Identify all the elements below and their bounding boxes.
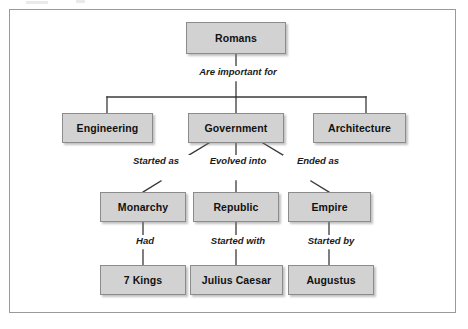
node-label: Government [205, 122, 268, 134]
edge-label-ended-as: Ended as [283, 155, 353, 166]
edge-government-empire-lower [311, 181, 329, 192]
node-label: Engineering [77, 122, 139, 134]
node-augustus[interactable]: Augustus [288, 265, 374, 295]
node-architecture[interactable]: Architecture [313, 113, 406, 143]
node-label: Architecture [328, 122, 391, 134]
edge-government-empire-upper [263, 143, 283, 155]
node-julius-caesar[interactable]: Julius Caesar [190, 265, 283, 295]
edge-label-evolved-into: Evolved into [195, 155, 281, 166]
node-seven-kings[interactable]: 7 Kings [100, 265, 186, 295]
node-label: Republic [213, 201, 258, 213]
edge-government-monarchy-upper [189, 143, 209, 155]
diagram-page: Romans Are important for Engineering Gov… [0, 0, 468, 329]
node-label: Augustus [306, 274, 355, 286]
edge-government-monarchy-lower [143, 181, 161, 192]
node-label: Romans [215, 32, 257, 44]
node-label: Monarchy [118, 201, 168, 213]
edge-label-had: Had [118, 235, 172, 246]
node-monarchy[interactable]: Monarchy [100, 192, 186, 222]
edge-label-started-with: Started with [196, 235, 280, 246]
node-label: Empire [311, 201, 347, 213]
node-empire[interactable]: Empire [288, 192, 371, 222]
edge-label-are-important-for: Are important for [170, 66, 306, 77]
node-republic[interactable]: Republic [193, 192, 279, 222]
edge-label-started-by: Started by [292, 235, 370, 246]
node-label: Julius Caesar [202, 274, 272, 286]
node-label: 7 Kings [124, 274, 163, 286]
node-romans[interactable]: Romans [186, 22, 286, 54]
node-engineering[interactable]: Engineering [62, 113, 153, 143]
edge-label-started-as: Started as [117, 155, 195, 166]
node-government[interactable]: Government [188, 113, 284, 143]
